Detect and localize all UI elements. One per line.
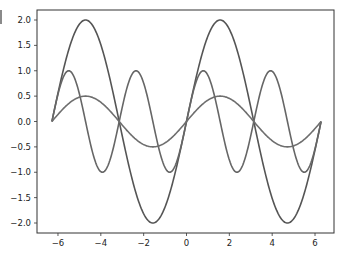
- x-tick-label: −2: [137, 238, 150, 248]
- y-axis-ticks: 2.01.51.00.50.0−0.5−1.0−1.5−2.0: [10, 15, 37, 228]
- x-tick-label: −4: [95, 238, 108, 248]
- x-tick-label: 6: [312, 238, 317, 248]
- y-tick-label: 0.0: [17, 117, 31, 127]
- x-axis-ticks: −6−4−20246: [52, 233, 318, 248]
- y-tick-label: −2.0: [10, 218, 31, 228]
- line-chart: 2.01.51.00.50.0−0.5−1.0−1.5−2.0 −6−4−202…: [0, 0, 344, 256]
- y-tick-label: 0.5: [17, 91, 31, 101]
- x-tick-label: 2: [227, 238, 232, 248]
- x-tick-label: −6: [52, 238, 65, 248]
- y-tick-label: −1.5: [10, 193, 31, 203]
- y-tick-label: −0.5: [10, 142, 31, 152]
- x-tick-label: 4: [269, 238, 274, 248]
- y-tick-label: 2.0: [17, 15, 31, 25]
- y-tick-label: 1.5: [17, 40, 31, 50]
- y-tick-label: 1.0: [17, 66, 31, 76]
- y-tick-label: −1.0: [10, 167, 31, 177]
- x-tick-label: 0: [184, 238, 189, 248]
